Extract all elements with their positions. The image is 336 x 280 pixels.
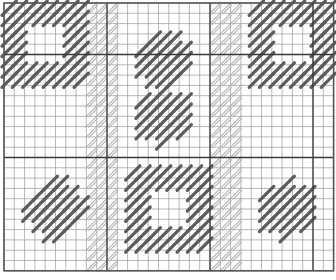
light-stitch [230, 136, 242, 148]
light-stitch [106, 84, 118, 96]
light-stitch [230, 249, 242, 261]
light-stitch [230, 84, 242, 96]
light-stitch [106, 249, 118, 261]
light-stitch [106, 12, 118, 24]
light-stitch [230, 64, 242, 76]
light-stitch [106, 74, 118, 86]
stitch-chart [0, 0, 336, 280]
light-stitch [106, 187, 118, 199]
light-stitch [96, 2, 108, 14]
light-stitch [106, 229, 118, 241]
light-stitch [106, 23, 118, 35]
light-stitch [230, 239, 242, 251]
light-stitch [106, 2, 118, 14]
light-stitch [230, 105, 242, 117]
light-stitch [230, 167, 242, 179]
light-stitch [106, 239, 118, 251]
light-stitch [106, 260, 118, 272]
light-stitch [230, 208, 242, 220]
light-stitch [230, 260, 242, 272]
light-stitch [230, 33, 242, 45]
light-stitch [230, 43, 242, 55]
light-stitch [106, 115, 118, 127]
light-stitch [106, 177, 118, 189]
light-stitch [106, 146, 118, 158]
light-stitch [230, 74, 242, 86]
light-stitch [230, 95, 242, 107]
light-stitch [230, 54, 242, 66]
light-stitch [230, 115, 242, 127]
light-stitch [230, 23, 242, 35]
light-stitch [230, 12, 242, 24]
light-stitch [106, 136, 118, 148]
light-stitch [106, 95, 118, 107]
light-stitch [209, 2, 221, 14]
light-stitch [230, 187, 242, 199]
light-stitch [106, 208, 118, 220]
light-stitch [230, 177, 242, 189]
light-stitch [230, 2, 242, 14]
light-stitch [106, 43, 118, 55]
light-stitch [230, 218, 242, 230]
light-stitch [106, 54, 118, 66]
light-stitch [230, 146, 242, 158]
light-stitch [106, 105, 118, 117]
light-stitch [230, 229, 242, 241]
light-stitch [219, 2, 231, 14]
light-stitch [106, 126, 118, 138]
dot-top-center [136, 32, 192, 88]
light-stitch [106, 218, 118, 230]
light-stitch [106, 64, 118, 76]
light-stitch [106, 157, 118, 169]
light-stitch [106, 33, 118, 45]
light-stitch [230, 198, 242, 210]
light-stitch [106, 198, 118, 210]
light-stitch [230, 157, 242, 169]
light-stitch [106, 167, 118, 179]
light-stitch [230, 126, 242, 138]
